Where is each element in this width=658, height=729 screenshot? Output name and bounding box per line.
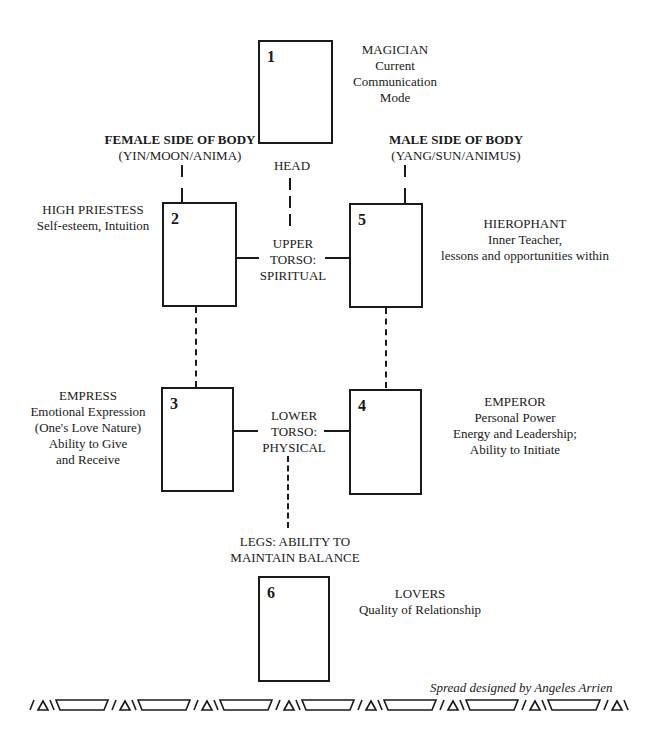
card-3-empress-box: 3 (161, 387, 234, 492)
card-1-magician-box: 1 (258, 40, 333, 144)
legs-zone-label: LEGS: ABILITY TO MAINTAIN BALANCE (220, 534, 370, 566)
card-meaning-line: Mode (340, 90, 450, 106)
male-connector (404, 188, 406, 203)
zone-line: SPIRITUAL (255, 268, 331, 284)
card-meaning-line: Quality of Relationship (350, 602, 490, 618)
card-5-label: HIEROPHANT Inner Teacher, lessons and op… (430, 216, 620, 264)
female-connector (181, 165, 183, 177)
zone-line: LOWER (256, 408, 332, 424)
zone-line: LEGS: ABILITY TO (220, 534, 370, 550)
spread-credit: Spread designed by Angeles Arrien (430, 680, 612, 696)
card-meaning-line: and Receive (24, 452, 152, 468)
male-connector (404, 165, 406, 177)
female-side-title: FEMALE SIDE OF BODY (50, 132, 310, 148)
zone-line: UPPER (255, 236, 331, 252)
decorative-border (28, 698, 632, 712)
female-spine-connector (195, 307, 197, 387)
card-number: 5 (358, 211, 366, 229)
head-zone-label: HEAD (252, 158, 332, 174)
card-6-lovers-box: 6 (258, 576, 330, 682)
card-4-label: EMPEROR Personal Power Energy and Leader… (440, 394, 590, 458)
card-meaning-line: Self-esteem, Intuition (28, 218, 158, 234)
card-meaning-line: Ability to Initiate (440, 442, 590, 458)
card-number: 3 (170, 395, 178, 413)
card-name: EMPEROR (440, 394, 590, 410)
male-spine-connector (385, 308, 387, 388)
card-4-emperor-box: 4 (349, 389, 422, 495)
lower-torso-connector (324, 430, 349, 432)
card-number: 4 (358, 397, 366, 415)
zone-line: PHYSICAL (256, 440, 332, 456)
card-number: 1 (267, 48, 275, 66)
card-3-label: EMPRESS Emotional Expression (One's Love… (24, 388, 152, 468)
card-name: MAGICIAN (340, 42, 450, 58)
head-connector (289, 196, 291, 208)
male-side-title: MALE SIDE OF BODY (376, 132, 536, 148)
card-meaning-line: (One's Love Nature) (24, 420, 152, 436)
card-meaning-line: Emotional Expression (24, 404, 152, 420)
card-number: 6 (267, 584, 275, 602)
card-1-label: MAGICIAN Current Communication Mode (340, 42, 450, 106)
lower-torso-connector (234, 430, 258, 432)
zone-line: MAINTAIN BALANCE (220, 550, 370, 566)
card-meaning-line: Ability to Give (24, 436, 152, 452)
card-meaning-line: Current (340, 58, 450, 74)
head-connector (289, 214, 291, 226)
zone-line: TORSO: (256, 424, 332, 440)
card-meaning-line: Communication (340, 74, 450, 90)
male-side-label: MALE SIDE OF BODY (YANG/SUN/ANIMUS) (376, 132, 536, 164)
card-meaning-line: Personal Power (440, 410, 590, 426)
card-meaning-line: Inner Teacher, (430, 232, 620, 248)
card-name: LOVERS (350, 586, 490, 602)
card-meaning-line: Energy and Leadership; (440, 426, 590, 442)
card-name: HIEROPHANT (430, 216, 620, 232)
zone-line: TORSO: (255, 252, 331, 268)
upper-torso-label: UPPER TORSO: SPIRITUAL (255, 236, 331, 284)
legs-connector (287, 456, 289, 528)
head-connector (289, 178, 291, 190)
upper-torso-connector (325, 257, 350, 259)
card-meaning-line: lessons and opportunities within (430, 248, 620, 264)
card-2-high-priestess-box: 2 (162, 202, 237, 307)
card-2-label: HIGH PRIESTESS Self-esteem, Intuition (28, 202, 158, 234)
lower-torso-label: LOWER TORSO: PHYSICAL (256, 408, 332, 456)
card-name: EMPRESS (24, 388, 152, 404)
card-number: 2 (171, 210, 179, 228)
card-6-label: LOVERS Quality of Relationship (350, 586, 490, 618)
female-connector (181, 188, 183, 202)
card-name: HIGH PRIESTESS (28, 202, 158, 218)
card-5-hierophant-box: 5 (349, 203, 423, 308)
male-side-subtitle: (YANG/SUN/ANIMUS) (376, 148, 536, 164)
